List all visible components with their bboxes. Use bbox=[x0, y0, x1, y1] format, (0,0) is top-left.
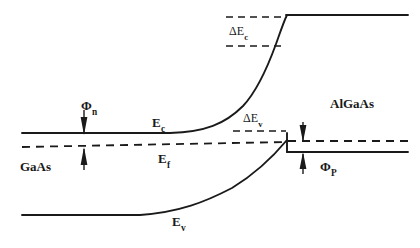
phi-n-label: Φn bbox=[81, 99, 97, 116]
phi-p-symbol: Φ bbox=[320, 159, 331, 174]
delta-ev-label: ΔEv bbox=[243, 112, 263, 127]
delta-ec-symbol: ΔE bbox=[229, 24, 244, 38]
phi-p-subscript: P bbox=[331, 168, 337, 178]
band-diagram-canvas bbox=[0, 0, 420, 248]
valence-band-label-subscript: v bbox=[181, 223, 186, 233]
material-label-algaas: AlGaAs bbox=[330, 97, 374, 110]
phi-p-down-arrow bbox=[300, 122, 307, 142]
phi-n-symbol: Φ bbox=[81, 98, 92, 113]
conduction-band-label: Ec bbox=[152, 116, 165, 133]
material-label-gaas: GaAs bbox=[20, 160, 51, 173]
delta-ev-symbol: ΔE bbox=[243, 111, 258, 125]
fermi-level-label: Ef bbox=[158, 152, 170, 169]
phi-p-label: ΦP bbox=[320, 160, 337, 177]
fermi-level-label-subscript: f bbox=[167, 160, 170, 170]
conduction-band-label-subscript: c bbox=[161, 124, 165, 134]
band-diagram-figure: GaAs AlGaAs Ec Ef Ev ΔEc ΔEv Φn ΦP bbox=[0, 0, 420, 248]
delta-ec-subscript: c bbox=[244, 32, 248, 42]
valence-band-curve-gaas bbox=[22, 140, 287, 215]
delta-ev-subscript: v bbox=[258, 119, 262, 129]
fermi-level-line-gaas bbox=[22, 142, 286, 147]
phi-n-subscript: n bbox=[92, 107, 97, 117]
valence-band-label: Ev bbox=[172, 215, 186, 232]
phi-p-up-arrow bbox=[300, 152, 307, 174]
phi-n-up-arrow bbox=[81, 147, 88, 170]
delta-ec-label: ΔEc bbox=[229, 25, 248, 40]
